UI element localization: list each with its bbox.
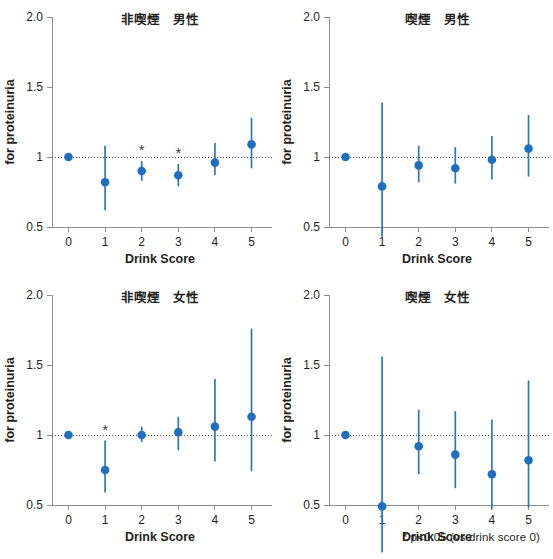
data-point-marker bbox=[414, 161, 423, 170]
panel-title: 非喫煙 男性 bbox=[121, 12, 199, 27]
data-point-marker bbox=[64, 431, 73, 440]
x-axis-title: Drink Score bbox=[125, 252, 195, 266]
data-point-marker bbox=[341, 153, 350, 162]
data-point-marker bbox=[488, 470, 497, 479]
data-point-marker bbox=[524, 144, 533, 153]
x-tick-label: 4 bbox=[212, 513, 219, 527]
chart-panel-nonsmoking-female: 0.511.52.0012345*Drink Scorefor proteinu… bbox=[0, 278, 276, 550]
y-axis-title: for proteinuria bbox=[3, 356, 17, 442]
x-tick-label: 0 bbox=[342, 513, 349, 527]
data-point-marker bbox=[451, 164, 460, 173]
x-tick-label: 5 bbox=[525, 513, 532, 527]
data-point-marker bbox=[247, 413, 256, 422]
x-tick-label: 1 bbox=[379, 235, 386, 249]
y-axis-title: for proteinuria bbox=[280, 78, 294, 164]
y-tick-label: 0.5 bbox=[26, 220, 43, 234]
x-tick-label: 1 bbox=[102, 513, 109, 527]
y-tick-label: 1.5 bbox=[303, 80, 320, 94]
x-tick-label: 3 bbox=[175, 513, 182, 527]
data-point-marker bbox=[101, 178, 110, 187]
plot-area: 0.511.52.0012345*Drink Scorefor proteinu… bbox=[0, 278, 276, 550]
plot-area: 0.511.52.0012345Drink Scorefor proteinur… bbox=[277, 278, 553, 550]
x-tick-label: 2 bbox=[138, 513, 145, 527]
y-axis-title: for proteinuria bbox=[3, 78, 17, 164]
x-tick-label: 5 bbox=[248, 235, 255, 249]
data-point-marker bbox=[174, 171, 183, 180]
x-tick-label: 4 bbox=[489, 235, 496, 249]
y-tick-label: 2.0 bbox=[303, 10, 320, 24]
y-axis-title: for proteinuria bbox=[280, 356, 294, 442]
significance-footnote: * p<0.05 (vs drink score 0) bbox=[0, 531, 540, 543]
chart-panel-nonsmoking-male: 0.511.52.0012345**Drink Scorefor protein… bbox=[0, 0, 276, 272]
x-tick-label: 3 bbox=[175, 235, 182, 249]
y-tick-label: 1 bbox=[313, 150, 320, 164]
x-tick-label: 1 bbox=[102, 235, 109, 249]
data-point-marker bbox=[101, 466, 110, 475]
y-tick-label: 1.5 bbox=[303, 358, 320, 372]
y-tick-label: 2.0 bbox=[26, 288, 43, 302]
y-tick-label: 1.5 bbox=[26, 358, 43, 372]
panel-title: 喫煙 男性 bbox=[405, 12, 470, 27]
y-tick-label: 0.5 bbox=[303, 498, 320, 512]
x-tick-label: 2 bbox=[415, 235, 422, 249]
chart-panel-smoking-male: 0.511.52.0012345Drink Scorefor proteinur… bbox=[277, 0, 553, 272]
data-point-marker bbox=[414, 442, 423, 451]
significance-star: * bbox=[139, 141, 145, 158]
data-point-marker bbox=[378, 502, 387, 511]
x-tick-label: 0 bbox=[342, 235, 349, 249]
data-point-marker bbox=[137, 431, 146, 440]
y-tick-label: 1.5 bbox=[26, 80, 43, 94]
data-point-marker bbox=[211, 422, 220, 431]
data-point-marker bbox=[211, 158, 220, 167]
significance-star: * bbox=[102, 421, 108, 438]
x-tick-label: 2 bbox=[138, 235, 145, 249]
y-tick-label: 0.5 bbox=[303, 220, 320, 234]
x-tick-label: 0 bbox=[65, 235, 72, 249]
x-tick-label: 2 bbox=[415, 513, 422, 527]
figure-panel-grid: 0.511.52.0012345**Drink Scorefor protein… bbox=[0, 0, 553, 559]
plot-area: 0.511.52.0012345**Drink Scorefor protein… bbox=[0, 0, 276, 272]
x-tick-label: 5 bbox=[248, 513, 255, 527]
y-tick-label: 2.0 bbox=[303, 288, 320, 302]
y-tick-label: 0.5 bbox=[26, 498, 43, 512]
panel-title: 非喫煙 女性 bbox=[121, 290, 199, 305]
y-tick-label: 2.0 bbox=[26, 10, 43, 24]
significance-star: * bbox=[175, 144, 181, 161]
y-tick-label: 1 bbox=[36, 150, 43, 164]
panel-title: 喫煙 女性 bbox=[405, 290, 470, 305]
data-point-marker bbox=[341, 431, 350, 440]
x-axis-title: Drink Score bbox=[402, 252, 472, 266]
data-point-marker bbox=[247, 140, 256, 149]
y-tick-label: 1 bbox=[36, 428, 43, 442]
data-point-marker bbox=[64, 153, 73, 162]
y-tick-label: 1 bbox=[313, 428, 320, 442]
x-tick-label: 5 bbox=[525, 235, 532, 249]
x-tick-label: 3 bbox=[452, 513, 459, 527]
data-point-marker bbox=[137, 167, 146, 176]
data-point-marker bbox=[378, 182, 387, 191]
data-point-marker bbox=[488, 156, 497, 165]
data-point-marker bbox=[451, 450, 460, 459]
data-point-marker bbox=[524, 456, 533, 465]
plot-area: 0.511.52.0012345Drink Scorefor proteinur… bbox=[277, 0, 553, 272]
x-tick-label: 0 bbox=[65, 513, 72, 527]
chart-panel-smoking-female: 0.511.52.0012345Drink Scorefor proteinur… bbox=[277, 278, 553, 550]
x-tick-label: 4 bbox=[212, 235, 219, 249]
x-tick-label: 3 bbox=[452, 235, 459, 249]
data-point-marker bbox=[174, 428, 183, 437]
x-tick-label: 4 bbox=[489, 513, 496, 527]
